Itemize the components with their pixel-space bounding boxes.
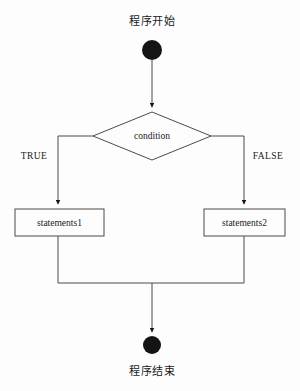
process-false-node-label: statements2	[222, 218, 267, 228]
edge-decision-false	[211, 136, 244, 204]
true-branch-label: TRUE	[21, 151, 47, 161]
false-branch-label: FALSE	[253, 151, 283, 161]
flowchart-canvas: 程序开始 condition TRUE FALSE statements1 st…	[0, 0, 300, 391]
end-node-label: 程序结束	[129, 364, 175, 377]
flowchart-diagram: 程序开始 condition TRUE FALSE statements1 st…	[0, 0, 300, 391]
start-node-label: 程序开始	[129, 14, 175, 27]
process-true-node-label: statements1	[37, 218, 82, 228]
decision-node-label: condition	[134, 131, 170, 141]
edge-decision-true	[58, 136, 93, 204]
end-node-circle	[143, 336, 161, 354]
start-node-circle	[142, 40, 162, 60]
